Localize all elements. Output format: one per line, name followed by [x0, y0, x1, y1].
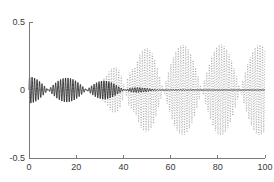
x-tick-label: 60: [166, 162, 176, 172]
y-axis-tick-marks: [29, 22, 33, 158]
figure-canvas: 020406080100 -0.500.5: [0, 0, 274, 182]
x-tick-label: 20: [71, 162, 81, 172]
x-tick-label: 40: [118, 162, 128, 172]
y-tick-label: 0: [20, 85, 25, 95]
x-axis-tick-labels: 020406080100: [26, 162, 272, 172]
y-axis-tick-labels: -0.500.5: [9, 17, 25, 163]
series-decaying-oscillation: [29, 77, 265, 103]
x-tick-label: 0: [26, 162, 31, 172]
plot-data-layer: [29, 45, 265, 136]
y-tick-label: 0.5: [12, 17, 25, 27]
y-tick-label: -0.5: [9, 153, 25, 163]
x-axis-tick-marks: [29, 155, 265, 159]
line-chart: 020406080100 -0.500.5: [0, 0, 274, 182]
x-tick-label: 100: [257, 162, 272, 172]
x-tick-label: 80: [213, 162, 223, 172]
